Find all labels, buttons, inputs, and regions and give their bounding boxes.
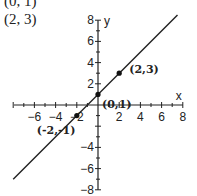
y-tick-label: 6 — [87, 34, 94, 48]
x-tick-label: 6 — [158, 110, 165, 124]
point-label: (-2,-1) — [37, 124, 76, 137]
x-axis-label: x — [176, 89, 182, 103]
y-tick-label: −4 — [80, 140, 94, 154]
y-tick-label: −6 — [80, 162, 94, 176]
x-tick-label: 8 — [179, 110, 186, 124]
y-axis-label: y — [104, 14, 110, 28]
y-tick-label: 8 — [87, 13, 94, 27]
point-label: (0,1) — [102, 98, 132, 111]
x-tick-label: 4 — [137, 110, 144, 124]
x-tick-label: −6 — [28, 110, 42, 124]
graph: −6−4−224688642−4−6−8xy(-2,-1)(0,1)(2,3) — [0, 0, 197, 196]
y-tick-label: 4 — [87, 56, 94, 70]
y-tick-label: −8 — [80, 183, 94, 196]
x-tick-label: 2 — [116, 110, 123, 124]
x-tick-label: −4 — [49, 110, 63, 124]
line-series — [13, 15, 177, 179]
data-point — [95, 92, 100, 97]
y-tick-label: 2 — [87, 77, 94, 91]
data-point — [117, 71, 122, 76]
point-label: (2,3) — [129, 63, 159, 76]
data-point — [74, 113, 79, 118]
